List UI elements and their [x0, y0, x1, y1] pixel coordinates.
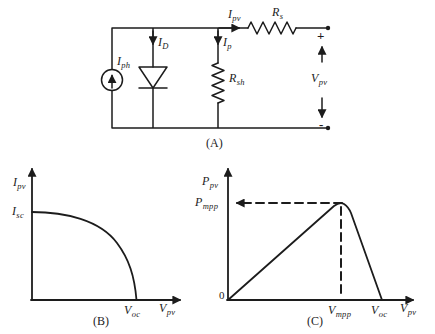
c-caption: (C) — [307, 315, 323, 328]
shunt-resistor-label: Rsh — [229, 72, 245, 87]
c-vmpp-tick-label: Vmpp — [328, 304, 351, 319]
circuit-diagram — [102, 22, 331, 130]
series-resistor-icon — [248, 22, 296, 34]
positive-terminal-sign: + — [317, 29, 324, 43]
negative-terminal-sign: - — [319, 118, 323, 132]
series-resistor-label: Rs — [272, 6, 283, 21]
circuit-wires — [112, 28, 328, 128]
terminal-voltage-label: Vpv — [311, 72, 327, 87]
output-current-label: Ipv — [228, 8, 241, 23]
c-origin-label: 0 — [219, 290, 225, 302]
shunt-resistor-icon — [212, 63, 224, 103]
photocurrent-label: Iph — [117, 55, 130, 70]
c-voc-tick-label: Voc — [371, 304, 387, 319]
c-y-axis-label: Ppv — [202, 175, 218, 190]
diode-icon — [139, 67, 167, 88]
c-x-axis-label: Vpv — [400, 302, 416, 317]
c-pmpp-tick-label: Pmpp — [195, 196, 218, 211]
b-caption: (B) — [93, 315, 109, 328]
b-y-axis-label: Ipv — [13, 176, 26, 191]
pv-curve — [228, 203, 382, 300]
negative-terminal-dot — [326, 126, 330, 130]
iv-curve-plot — [31, 169, 180, 300]
b-x-axis-label: Vpv — [159, 302, 175, 317]
shunt-current-label: Ip — [223, 36, 232, 51]
positive-terminal-dot — [326, 26, 330, 30]
pv-cell-figure: Ipv Rs Iph ID Ip Rsh + Vpv - (A) Ipv Isc… — [0, 0, 435, 334]
b-isc-tick-label: Isc — [12, 205, 24, 220]
circuit-caption: (A) — [206, 137, 223, 150]
b-voc-tick-label: Voc — [124, 304, 140, 319]
figure-linework — [0, 0, 435, 334]
pv-curve-plot — [227, 169, 413, 300]
iv-curve — [32, 212, 137, 300]
diode-current-label: ID — [158, 36, 169, 51]
